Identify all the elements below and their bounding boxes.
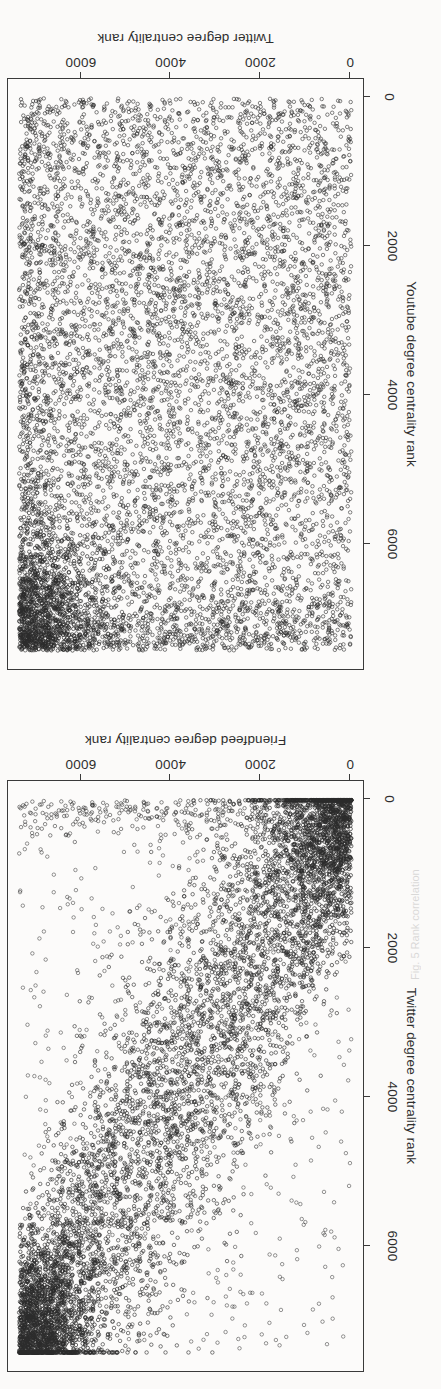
scatter-points-top bbox=[8, 79, 363, 669]
x-tick-6000 bbox=[80, 72, 81, 78]
x-ticklabel-2000: 2000 bbox=[245, 757, 276, 772]
y-axis-title-bottom: Twitter degree centrality rank bbox=[404, 988, 419, 1164]
scatter-panel-bottom: 0 2000 4000 6000 0 2000 4000 6000 Friend… bbox=[0, 706, 441, 1378]
y-tick-4000 bbox=[364, 1096, 370, 1097]
x-tick-2000 bbox=[259, 774, 260, 780]
y-tick-2000 bbox=[364, 947, 370, 948]
x-ticklabel-0: 0 bbox=[346, 757, 354, 772]
x-ticklabel-2000: 2000 bbox=[245, 55, 276, 70]
x-axis-title-top: Twitter degree centrality rank bbox=[7, 31, 364, 46]
x-tick-0 bbox=[349, 72, 350, 78]
y-ticklabel-6000: 6000 bbox=[385, 529, 400, 560]
y-tick-4000 bbox=[364, 394, 370, 395]
x-tick-4000 bbox=[169, 72, 170, 78]
x-ticklabel-6000: 6000 bbox=[65, 757, 96, 772]
y-ticklabel-6000: 6000 bbox=[385, 1231, 400, 1262]
y-ticklabel-4000: 4000 bbox=[385, 1082, 400, 1113]
scatter-points-bottom bbox=[8, 781, 363, 1371]
x-ticklabel-4000: 4000 bbox=[155, 55, 186, 70]
plot-area-top bbox=[7, 78, 364, 670]
figure-sheet: 0 2000 4000 6000 0 2000 4000 6000 Twitte… bbox=[0, 0, 441, 1389]
x-ticklabel-4000: 4000 bbox=[155, 757, 186, 772]
y-tick-0 bbox=[364, 798, 370, 799]
x-tick-2000 bbox=[259, 72, 260, 78]
x-ticklabel-0: 0 bbox=[346, 55, 354, 70]
y-ticklabel-2000: 2000 bbox=[385, 933, 400, 964]
y-tick-0 bbox=[364, 96, 370, 97]
x-ticklabel-6000: 6000 bbox=[65, 55, 96, 70]
x-axis-title-bottom: Friendfeed degree centrality rank bbox=[7, 733, 364, 748]
scatter-panel-top: 0 2000 4000 6000 0 2000 4000 6000 Twitte… bbox=[0, 4, 441, 676]
y-tick-2000 bbox=[364, 245, 370, 246]
y-ticklabel-0: 0 bbox=[382, 94, 397, 102]
y-ticklabel-0: 0 bbox=[382, 796, 397, 804]
plot-area-bottom bbox=[7, 780, 364, 1372]
x-tick-6000 bbox=[80, 774, 81, 780]
x-tick-4000 bbox=[169, 774, 170, 780]
y-ticklabel-2000: 2000 bbox=[385, 231, 400, 262]
y-ticklabel-4000: 4000 bbox=[385, 380, 400, 411]
x-tick-0 bbox=[349, 774, 350, 780]
caption-fragment: Fig. 5 Rank correlation bbox=[409, 340, 439, 980]
y-tick-6000 bbox=[364, 1245, 370, 1246]
y-tick-6000 bbox=[364, 543, 370, 544]
